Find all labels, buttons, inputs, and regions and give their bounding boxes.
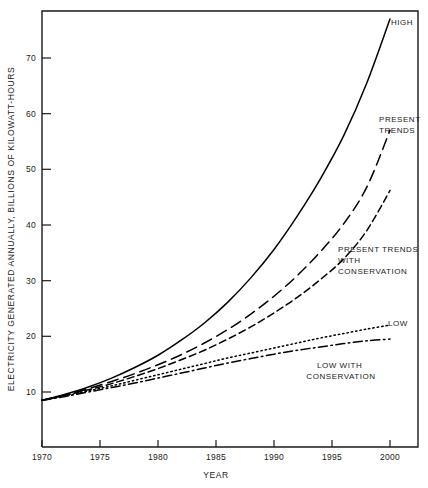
y-tick-label-20: 20	[26, 331, 36, 341]
series-label-lwc-line-1: CONSERVATION	[306, 372, 375, 381]
y-tick-label-50: 50	[26, 164, 36, 174]
chart-canvas: 70 60 50 40 30 20 10 1970 1975 1980 1985…	[0, 0, 428, 488]
series-label-present-trends-line-0: PRESENT	[379, 115, 421, 124]
x-tick-label-1970: 1970	[32, 452, 52, 462]
y-tick-label-60: 60	[26, 109, 36, 119]
series-annotations: HIGH PRESENT TRENDS PRESENT TRENDS WITH …	[306, 18, 423, 381]
series-label-high: HIGH	[391, 18, 413, 27]
y-tick-label-40: 40	[26, 220, 36, 230]
x-axis-tick-labels: 1970 1975 1980 1985 1990 1995 2000	[32, 452, 400, 462]
x-axis-ticks	[42, 440, 390, 447]
series-label-present-trends-with-conservation: PRESENT TRENDS WITH CONSERVATION	[338, 245, 421, 276]
series-label-present-trends: PRESENT TRENDS	[379, 115, 423, 135]
x-tick-label-2000: 2000	[380, 452, 400, 462]
y-axis-title: ELECTRICITY GENERATED ANNUALLY, BILLIONS…	[6, 67, 16, 392]
x-axis-title: YEAR	[203, 470, 229, 480]
series-label-present-trends-line-1: TRENDS	[379, 126, 415, 135]
x-tick-label-1980: 1980	[148, 452, 168, 462]
series-label-low: LOW	[388, 319, 408, 328]
series-label-high-line-0: HIGH	[391, 18, 413, 27]
y-axis-ticks	[42, 58, 51, 392]
x-tick-label-1990: 1990	[264, 452, 284, 462]
series-label-ptwc-line-0: PRESENT TRENDS	[338, 245, 418, 254]
data-curves	[42, 19, 390, 400]
series-label-ptwc-line-2: CONSERVATION	[338, 267, 407, 276]
electricity-forecast-chart: 70 60 50 40 30 20 10 1970 1975 1980 1985…	[0, 0, 428, 488]
y-tick-label-70: 70	[26, 53, 36, 63]
curve-high	[42, 19, 390, 400]
x-tick-label-1975: 1975	[90, 452, 110, 462]
series-label-ptwc-line-1: WITH	[338, 256, 361, 265]
plot-frame	[42, 11, 418, 447]
x-tick-label-1995: 1995	[322, 452, 342, 462]
series-label-low-with-conservation: LOW WITH CONSERVATION	[306, 361, 375, 381]
series-label-low-line-0: LOW	[388, 319, 408, 328]
y-tick-label-10: 10	[26, 387, 36, 397]
series-label-lwc-line-0: LOW WITH	[317, 361, 362, 370]
y-tick-label-30: 30	[26, 276, 36, 286]
axis-frame-path	[42, 11, 418, 447]
y-axis-tick-labels: 70 60 50 40 30 20 10	[26, 53, 36, 397]
curve-present-trends	[42, 130, 390, 400]
x-tick-label-1985: 1985	[206, 452, 226, 462]
